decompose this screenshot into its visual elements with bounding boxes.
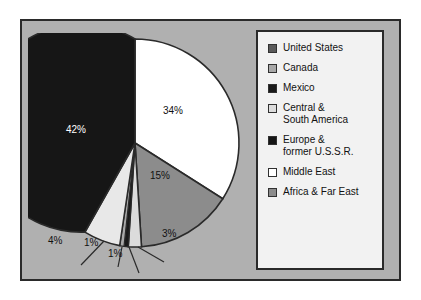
leader-line-central-south-america [138,247,164,262]
legend-swatch-icon [268,168,277,177]
legend-item-label: Africa & Far East [283,186,359,198]
callout-value-canada: 1% [84,237,98,248]
leader-line-mexico [129,247,139,273]
legend-item-label: Central & South America [283,102,348,126]
legend-item-united-states[interactable]: United States [268,42,382,54]
callout-value-united-states: 4% [48,235,62,246]
legend-item-label: Canada [283,62,318,74]
slice-value-middle-east: 34% [163,105,183,116]
legend-item-central-south-america[interactable]: Central & South America [268,102,382,126]
legend-item-label: Middle East [283,166,335,178]
legend-swatch-icon [268,84,277,93]
legend-item-africa-far-east[interactable]: Africa & Far East [268,186,382,198]
legend-swatch-icon [268,188,277,197]
legend-item-label: Europe & former U.S.S.R. [283,134,354,158]
slice-value-africa-far-east: 15% [150,170,170,181]
callout-value-mexico: 1% [108,248,122,259]
chart-legend: United States Canada Mexico Central & So… [256,30,384,270]
legend-item-label: Mexico [283,82,315,94]
legend-swatch-icon [268,104,277,113]
legend-item-canada[interactable]: Canada [268,62,382,74]
legend-item-label: United States [283,42,343,54]
legend-swatch-icon [268,136,277,145]
slice-value-europe-ussr: 42% [66,124,86,135]
legend-item-europe-ussr[interactable]: Europe & former U.S.S.R. [268,134,382,158]
legend-item-mexico[interactable]: Mexico [268,82,382,94]
pie-chart-figure: 34% 15% 42% 4% 1% 1% 3% United States Ca… [0,0,421,300]
legend-swatch-icon [268,64,277,73]
legend-item-middle-east[interactable]: Middle East [268,166,382,178]
legend-swatch-icon [268,44,277,53]
callout-value-central-south-america: 3% [162,228,176,239]
chart-plot-area: 34% 15% 42% 4% 1% 1% 3% United States Ca… [0,0,421,300]
